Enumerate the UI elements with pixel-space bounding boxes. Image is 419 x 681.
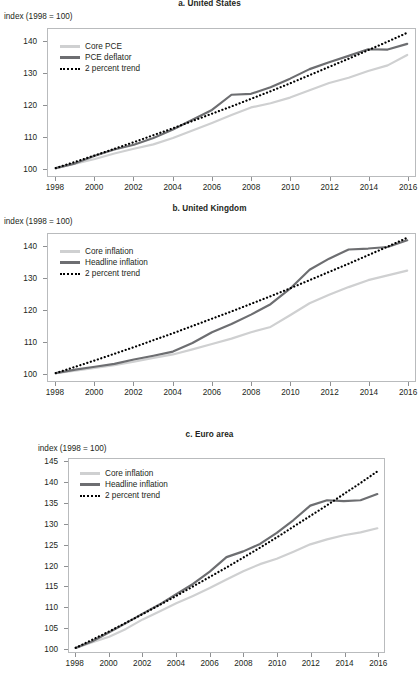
x-tickmark [277,653,278,657]
x-tick-label: 2006 [200,659,218,668]
trend-line-swatch-icon [80,490,100,501]
x-tickmark [408,382,409,386]
legend-label-headline-inflation-c: Headline inflation [105,480,168,489]
core-inflation-line-swatch-icon [80,468,100,479]
x-tickmark [212,382,213,386]
y-tickmark [43,169,47,170]
panel-c-legend: Core inflation Headline inflation 2 perc… [80,468,168,501]
y-tickmark [43,342,47,343]
y-tick-label: 105 [26,624,58,633]
x-tickmark [311,653,312,657]
x-tick-label: 2014 [360,183,378,192]
y-tickmark [43,246,47,247]
x-tickmark [369,177,370,181]
x-tickmark [408,177,409,181]
x-tick-label: 2014 [360,388,378,397]
legend-item-pce-deflator: PCE deflator [60,52,140,63]
panel-united-states: a. United States index (1998 = 100) 1001… [0,0,419,205]
x-tickmark [251,177,252,181]
x-tickmark [290,177,291,181]
y-tickmark [43,137,47,138]
y-tickmark [64,482,68,483]
panel-b-legend: Core inflation Headline inflation 2 perc… [60,246,148,279]
x-tick-label: 2008 [242,388,260,397]
legend-item-headline-inflation-b: Headline inflation [60,257,148,268]
legend-label-headline-inflation-b: Headline inflation [85,258,148,267]
y-tick-label: 145 [26,457,58,466]
x-tick-label: 2016 [399,388,417,397]
panel-a-axis-note: index (1998 = 100) [4,12,73,21]
headline-inflation-line-swatch-icon [60,257,80,268]
y-tickmark [64,628,68,629]
x-tick-label: 1998 [66,659,84,668]
legend-label-pce-deflator: PCE deflator [85,53,131,62]
legend-item-trend-a: 2 percent trend [60,63,140,74]
y-tick-label: 140 [5,36,37,45]
y-tickmark [43,105,47,106]
x-tickmark [133,177,134,181]
panel-united-kingdom: b. United Kingdom index (1998 = 100) 100… [0,205,419,430]
x-tick-label: 2008 [234,659,252,668]
x-tickmark [330,177,331,181]
y-tick-label: 120 [5,100,37,109]
x-tickmark [173,177,174,181]
legend-label-core-inflation-c: Core inflation [105,469,153,478]
x-tick-label: 2010 [281,183,299,192]
series-line-core-inflation [76,528,378,648]
x-tickmark [212,177,213,181]
x-tickmark [142,653,143,657]
panel-b-axis-note: index (1998 = 100) [4,217,73,226]
x-tick-label: 2004 [163,183,181,192]
y-tickmark [64,503,68,504]
x-tick-label: 2012 [320,183,338,192]
x-tick-label: 2002 [133,659,151,668]
y-tick-label: 120 [5,305,37,314]
x-tick-label: 2012 [320,388,338,397]
x-tick-label: 2012 [302,659,320,668]
core-inflation-line-swatch-icon [60,246,80,257]
x-tick-label: 2016 [369,659,387,668]
x-tickmark [290,382,291,386]
y-tickmark [64,545,68,546]
x-tick-label: 1998 [46,388,64,397]
y-tickmark [43,278,47,279]
legend-item-core-inflation-b: Core inflation [60,246,148,257]
x-tickmark [210,653,211,657]
x-tickmark [94,382,95,386]
legend-item-trend-b: 2 percent trend [60,268,148,279]
y-tickmark [43,310,47,311]
x-tickmark [75,653,76,657]
trend-line-swatch-icon [60,268,80,279]
y-tick-label: 120 [26,561,58,570]
legend-label-trend-a: 2 percent trend [85,64,140,73]
headline-inflation-line-swatch-icon [80,479,100,490]
y-tickmark [64,586,68,587]
x-tick-label: 2010 [281,388,299,397]
y-tickmark [64,524,68,525]
legend-item-core-inflation-c: Core inflation [80,468,168,479]
y-tick-label: 100 [5,370,37,379]
y-tick-label: 130 [5,273,37,282]
x-tick-label: 2000 [85,388,103,397]
y-tick-label: 110 [5,132,37,141]
y-tick-label: 125 [26,540,58,549]
series-line-core-inflation [56,271,407,373]
x-tick-label: 2000 [99,659,117,668]
panel-euro-area: c. Euro area index (1998 = 100) 10010511… [0,430,419,681]
x-tick-label: 2002 [124,388,142,397]
legend-label-core-pce: Core PCE [85,42,122,51]
y-tickmark [64,607,68,608]
y-tickmark [43,41,47,42]
y-tick-label: 115 [26,582,58,591]
x-tickmark [55,382,56,386]
legend-item-trend-c: 2 percent trend [80,490,168,501]
y-tickmark [64,461,68,462]
legend-label-core-inflation-b: Core inflation [85,247,133,256]
y-tickmark [64,649,68,650]
x-tick-label: 2004 [167,659,185,668]
x-tick-label: 2006 [203,388,221,397]
x-tickmark [55,177,56,181]
legend-item-core-pce: Core PCE [60,41,140,52]
core-pce-line-swatch-icon [60,41,80,52]
x-tick-label: 1998 [46,183,64,192]
